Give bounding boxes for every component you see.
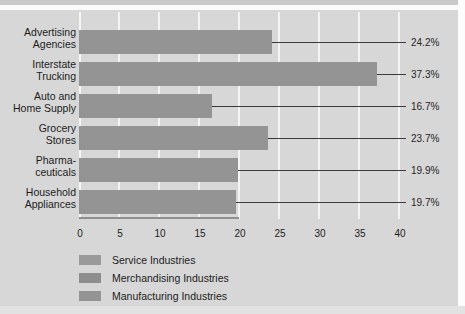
- x-axis-baseline: [79, 217, 239, 219]
- y-axis-label-2: Auto and Home Supply: [2, 90, 76, 114]
- gridline-30: [318, 12, 320, 219]
- legend-swatch-icon: [79, 255, 101, 265]
- legend-item-service-industries[interactable]: Service Industries: [79, 252, 229, 268]
- chart-page: Advertising Agencies Interstate Trucking…: [0, 0, 465, 314]
- gridline-35: [358, 12, 360, 219]
- x-tick-label-1: 5: [108, 228, 132, 239]
- legend-swatch-icon: [79, 273, 101, 283]
- value-label-3: 23.7%: [411, 133, 439, 144]
- legend-label-2: Manufacturing Industries: [112, 290, 227, 302]
- value-label-0: 24.2%: [411, 37, 439, 48]
- leader-line-0: [272, 42, 406, 43]
- x-tick-label-6: 30: [308, 228, 332, 239]
- page-bottom-white-band: [0, 306, 465, 314]
- y-axis-label-4: Pharma- ceuticals: [2, 154, 76, 178]
- y-axis-label-3: Grocery Stores: [2, 122, 76, 146]
- x-tick-label-5: 25: [268, 228, 292, 239]
- y-axis-label-0: Advertising Agencies: [2, 26, 76, 50]
- x-tick-label-0: 0: [68, 228, 92, 239]
- bar-pharmaceuticals[interactable]: [79, 158, 238, 182]
- legend-label-0: Service Industries: [112, 254, 195, 266]
- gridline-25: [278, 12, 280, 219]
- x-tick-label-3: 15: [188, 228, 212, 239]
- chart-legend: Service Industries Merchandising Industr…: [79, 252, 229, 306]
- bar-interstate-trucking[interactable]: [79, 62, 377, 86]
- legend-label-1: Merchandising Industries: [112, 272, 229, 284]
- y-axis-label-1: Interstate Trucking: [2, 58, 76, 82]
- leader-line-2: [212, 106, 406, 107]
- plot-area: [79, 12, 406, 219]
- bar-auto-and-home-supply[interactable]: [79, 94, 212, 118]
- bar-household-appliances[interactable]: [79, 190, 236, 214]
- x-tick-label-2: 10: [148, 228, 172, 239]
- value-label-5: 19.7%: [411, 197, 439, 208]
- x-tick-label-7: 35: [348, 228, 372, 239]
- value-label-1: 37.3%: [411, 69, 439, 80]
- page-right-white-strip: [458, 0, 465, 314]
- bar-advertising-agencies[interactable]: [79, 30, 272, 54]
- bar-grocery-stores[interactable]: [79, 126, 268, 150]
- leader-line-5: [236, 202, 406, 203]
- y-axis-label-5: Household Appliances: [2, 186, 76, 210]
- gridline-40: [398, 12, 400, 219]
- leader-line-4: [238, 170, 406, 171]
- legend-item-manufacturing-industries[interactable]: Manufacturing Industries: [79, 288, 229, 304]
- x-tick-label-8: 40: [388, 228, 412, 239]
- legend-item-merchandising-industries[interactable]: Merchandising Industries: [79, 270, 229, 286]
- x-tick-label-4: 20: [228, 228, 252, 239]
- legend-swatch-icon: [79, 291, 101, 301]
- value-label-2: 16.7%: [411, 101, 439, 112]
- leader-line-3: [268, 138, 406, 139]
- leader-line-1: [377, 74, 406, 75]
- y-axis-labels: Advertising Agencies Interstate Trucking…: [0, 0, 76, 240]
- value-label-4: 19.9%: [411, 165, 439, 176]
